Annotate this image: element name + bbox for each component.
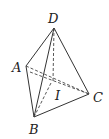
label-B: B <box>28 122 39 137</box>
segment-DI-hidden <box>53 28 54 82</box>
label-C: C <box>93 90 103 105</box>
label-A: A <box>11 60 21 75</box>
tetrahedron-diagram: D A C B I <box>0 0 109 139</box>
edge-BC <box>34 94 89 117</box>
segment-BI-hidden <box>34 83 51 117</box>
edge-DC <box>54 28 89 94</box>
label-D: D <box>47 11 59 26</box>
label-I: I <box>54 88 61 103</box>
edge-AB <box>26 66 34 117</box>
